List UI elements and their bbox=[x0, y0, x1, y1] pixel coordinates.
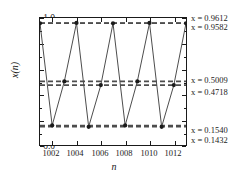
data-point bbox=[111, 21, 115, 25]
data-point bbox=[147, 21, 151, 25]
plot-canvas bbox=[40, 18, 186, 145]
y-axis-title: x(n) bbox=[10, 62, 20, 78]
reference-line-label: x = 0.1432 bbox=[191, 136, 228, 145]
x-tick-label: 1012 bbox=[158, 149, 188, 158]
reference-line-label: x = 0.1540 bbox=[191, 126, 228, 135]
data-point bbox=[160, 125, 164, 129]
data-point bbox=[123, 123, 127, 127]
reference-line-label: x = 0.5009 bbox=[191, 76, 228, 85]
x-axis-title: n bbox=[0, 162, 228, 172]
chart-figure: 1.0 0.8 0.6 0.4 0.2 0.0 x(n) bbox=[0, 0, 245, 192]
data-point bbox=[135, 79, 139, 83]
reference-line-label: x = 0.9582 bbox=[191, 23, 228, 32]
data-point bbox=[87, 125, 91, 129]
series-svg bbox=[40, 18, 186, 145]
data-point bbox=[50, 123, 54, 127]
data-point bbox=[74, 21, 78, 25]
reference-line-label: x = 0.4718 bbox=[191, 88, 228, 97]
data-point bbox=[62, 79, 66, 83]
data-point bbox=[184, 21, 186, 25]
y-tick-mark bbox=[182, 146, 186, 147]
plot-area bbox=[39, 17, 187, 146]
series-line bbox=[40, 23, 186, 127]
data-point bbox=[99, 83, 103, 87]
y-tick-mark bbox=[40, 146, 44, 147]
data-point bbox=[40, 21, 42, 25]
data-point bbox=[172, 83, 176, 87]
